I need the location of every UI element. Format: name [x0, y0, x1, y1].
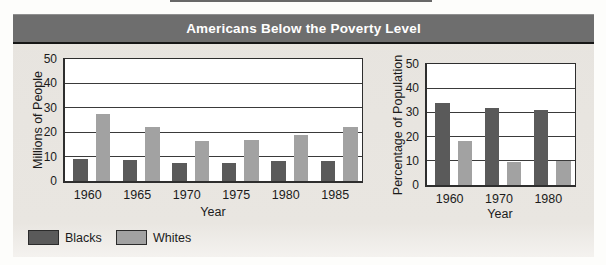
bar-whites-1965 [145, 127, 159, 181]
legend-label-whites: Whites [153, 230, 191, 245]
y-tick-label-40: 40 [25, 76, 57, 90]
percentage-of-population-chart: Percentage of Population Year 0102030405… [380, 44, 594, 244]
x-tick-label-1965: 1965 [123, 188, 151, 202]
gridline-40 [65, 83, 362, 84]
bar-blacks-1960 [73, 159, 87, 181]
y-axis-label: Percentage of Population [391, 55, 405, 195]
y-tick-label-30: 30 [387, 105, 419, 119]
x-axis-label: Year [200, 205, 225, 219]
x-tick-label-1975: 1975 [222, 188, 250, 202]
millions-of-people-chart: Millions of People Year 0102030405019601… [13, 44, 393, 244]
bar-whites-1970 [507, 162, 521, 185]
y-tick-label-10: 10 [25, 150, 57, 164]
bar-whites-1985 [343, 127, 357, 181]
x-tick-label-1980: 1980 [534, 192, 562, 206]
figure-page: Americans Below the Poverty Level Millio… [0, 0, 606, 265]
gridline-40 [427, 88, 575, 89]
y-tick-label-30: 30 [25, 101, 57, 115]
y-tick-label-20: 20 [25, 125, 57, 139]
figure-title-bar: Americans Below the Poverty Level [13, 14, 594, 44]
gridline-30 [65, 107, 362, 108]
bar-whites-1960 [96, 114, 110, 181]
bar-blacks-1975 [222, 163, 236, 181]
legend-label-blacks: Blacks [65, 230, 102, 245]
bar-whites-1970 [195, 141, 209, 181]
x-tick-label-1985: 1985 [321, 188, 349, 202]
y-tick-label-50: 50 [25, 52, 57, 66]
bar-blacks-1970 [172, 163, 186, 181]
y-tick-label-0: 0 [387, 178, 419, 192]
plot-area [425, 63, 576, 187]
y-tick-label-40: 40 [387, 81, 419, 95]
bar-whites-1980 [556, 161, 570, 185]
y-tick-label-50: 50 [387, 57, 419, 71]
bar-blacks-1970 [485, 108, 499, 185]
x-tick-label-1960: 1960 [74, 188, 102, 202]
bar-blacks-1980 [271, 161, 285, 181]
bar-whites-1960 [458, 141, 472, 185]
x-axis-label: Year [487, 207, 512, 221]
legend-swatch-whites [116, 230, 147, 245]
x-tick-label-1970: 1970 [173, 188, 201, 202]
bar-blacks-1985 [321, 161, 335, 181]
bar-whites-1975 [244, 140, 258, 181]
x-tick-label-1960: 1960 [436, 192, 464, 206]
legend-swatch-blacks [28, 230, 59, 245]
plot-area [63, 58, 363, 183]
y-tick-label-20: 20 [387, 130, 419, 144]
y-tick-label-0: 0 [25, 174, 57, 188]
bar-blacks-1980 [534, 110, 548, 185]
scan-edge-line [170, 0, 432, 2]
x-tick-label-1980: 1980 [272, 188, 300, 202]
bar-blacks-1965 [123, 160, 137, 181]
bar-whites-1980 [294, 135, 308, 181]
x-tick-label-1970: 1970 [485, 192, 513, 206]
bar-blacks-1960 [435, 103, 449, 185]
figure-title: Americans Below the Poverty Level [186, 21, 421, 36]
y-tick-label-10: 10 [387, 154, 419, 168]
